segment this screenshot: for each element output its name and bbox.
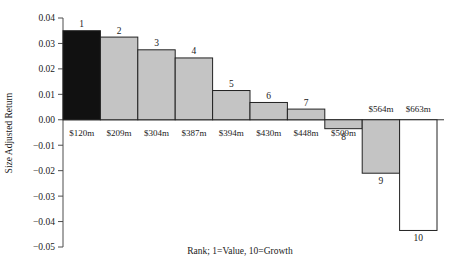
bar-value-label: $304m [144,128,169,138]
bar [213,91,250,120]
y-axis-tick-group: 0.040.030.020.010.00−0.01−0.02−0.03−0.04… [33,13,63,252]
y-axis-tick-label: 0.00 [38,115,55,125]
bar-value-label: $394m [219,128,244,138]
bar-value-label: $209m [107,128,132,138]
bar-value-label: $430m [256,128,281,138]
bar [138,50,175,120]
bar-rank-label: 7 [304,98,309,108]
bar-rank-label: 9 [379,176,384,186]
bar-rank-label: 6 [266,91,271,101]
bar [100,37,137,120]
y-axis-tick-label: −0.05 [33,242,55,252]
bar-rank-label: 1 [79,19,84,29]
bar [175,58,212,120]
bar-value-label: $448m [294,128,319,138]
bar-rank-label: 2 [117,26,122,36]
y-axis-tick-label: −0.02 [33,166,55,176]
y-axis-tick-label: 0.04 [38,13,55,23]
bar-value-label: $564m [368,104,393,114]
bar-value-label: $120m [69,128,94,138]
x-axis-caption: Rank; 1=Value, 10=Growth [187,246,293,256]
chart-canvas: 0.040.030.020.010.00−0.01−0.02−0.03−0.04… [0,0,451,271]
bar-value-label: $387m [181,128,206,138]
y-axis-tick-label: −0.01 [33,141,55,151]
bar-chart: 0.040.030.020.010.00−0.01−0.02−0.03−0.04… [0,0,451,271]
bar-rank-label: 4 [192,46,197,56]
y-axis-title: Size Adjusted Return [4,92,14,173]
y-axis-tick-label: 0.02 [38,64,55,74]
y-axis-tick-label: 0.03 [38,39,55,49]
bar [63,31,100,120]
y-axis-tick-label: 0.01 [38,90,55,100]
y-axis-tick-label: −0.04 [33,217,55,227]
bar [250,102,287,119]
bar [400,120,437,231]
y-axis-tick-label: −0.03 [33,192,55,202]
bar-value-label: $509m [331,128,356,138]
bar-rank-label: 5 [229,79,234,89]
bar-value-label: $663m [406,104,431,114]
bar [287,109,324,120]
bar-rank-label: 3 [154,38,159,48]
bar-rank-label: 10 [414,233,424,243]
bar [362,120,399,173]
